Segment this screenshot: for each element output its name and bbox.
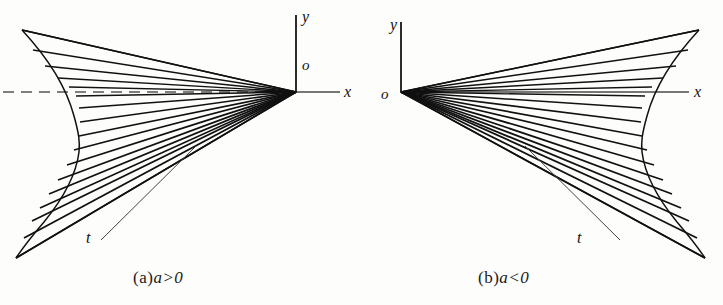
panel-a-caption-prefix: (a) <box>133 268 153 287</box>
panel-b <box>401 22 705 258</box>
cusp-envelope-figure: y o x t y o x t <box>0 0 723 305</box>
panel-b-origin-label: o <box>381 86 389 102</box>
panel-b-ray-family <box>401 30 705 258</box>
panel-a-caption-condition: a>0 <box>153 268 183 287</box>
panel-a-envelope-upper <box>22 30 79 152</box>
panel-a-edge-top <box>22 30 296 92</box>
panel-b-x-axis-label: x <box>693 83 701 100</box>
panel-b-envelope-upper <box>642 30 699 152</box>
panel-b-y-axis-label: y <box>388 16 398 34</box>
panel-a-edge-bottom <box>16 92 296 258</box>
panel-a-origin-label: o <box>302 57 310 73</box>
panel-a-tangent-label: t <box>86 229 91 246</box>
panel-a-ray-family <box>16 30 296 258</box>
panel-a-y-axis-label: y <box>300 8 310 26</box>
panel-a-caption: (a)a>0 <box>133 268 183 288</box>
panel-a-x-axis-label: x <box>343 83 351 100</box>
panel-b-caption-condition: a<0 <box>499 268 529 287</box>
panel-a <box>3 15 340 258</box>
figure-container: y o x t y o x t <box>0 0 723 305</box>
panel-b-edge-bottom <box>401 92 705 258</box>
panel-b-caption-prefix: (b) <box>478 268 499 287</box>
panel-b-caption: (b)a<0 <box>478 268 529 288</box>
panel-b-edge-top <box>401 30 699 92</box>
panel-b-tangent-label: t <box>577 229 582 246</box>
panel-a-tangent-line <box>101 146 196 240</box>
